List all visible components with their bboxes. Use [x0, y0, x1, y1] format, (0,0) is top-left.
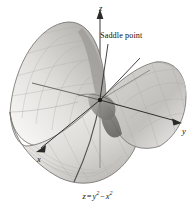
saddle-point-figure: z y x Saddle point z=y2−x2 — [0, 0, 195, 207]
caption-minus: − — [99, 192, 106, 201]
axis-label-z: z — [99, 4, 102, 13]
surface-plot-canvas — [0, 0, 195, 207]
axis-label-x: x — [37, 155, 41, 164]
saddle-point-annotation: Saddle point — [100, 32, 142, 40]
caption-term2-exponent: 2 — [110, 190, 113, 196]
figure-caption: z=y2−x2 — [0, 190, 195, 201]
axis-label-y: y — [182, 127, 186, 136]
